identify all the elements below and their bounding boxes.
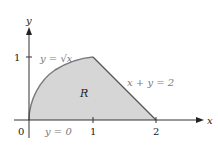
y-tick-label-1: 1 xyxy=(14,52,20,63)
region-r xyxy=(29,57,156,120)
y-axis-label: y xyxy=(25,15,32,26)
sqrt-curve-label: y = √x xyxy=(39,53,73,64)
origin-label: 0 xyxy=(18,126,24,137)
y-axis-arrow-icon xyxy=(26,27,32,35)
x-tick-label-1: 1 xyxy=(90,126,96,137)
region-label: R xyxy=(79,87,88,100)
region-diagram: y x 1 0 1 2 y = √x x + y = 2 y = 0 R xyxy=(0,0,218,145)
x-tick-label-2: 2 xyxy=(153,126,159,137)
line-label: x + y = 2 xyxy=(127,77,174,88)
x-axis-label: x xyxy=(207,115,213,126)
base-label: y = 0 xyxy=(44,126,72,137)
x-axis-arrow-icon xyxy=(196,117,204,123)
